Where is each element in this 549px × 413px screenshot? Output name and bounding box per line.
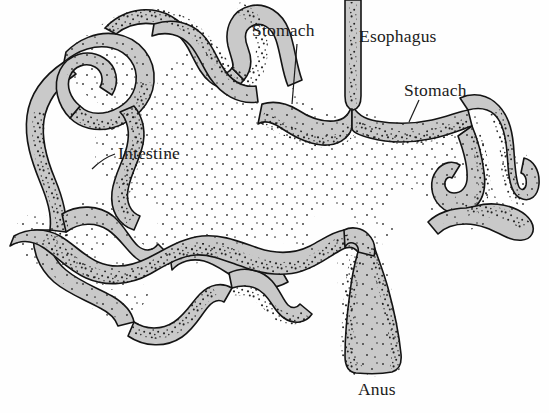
label-stomach-right: Stomach [404, 82, 467, 100]
label-stomach-upper: Stomach [252, 22, 315, 40]
digestive-tract-illustration [0, 0, 549, 413]
label-esophagus: Esophagus [359, 28, 437, 46]
leader-line-stomach-right [409, 100, 419, 122]
label-anus: Anus [358, 381, 396, 399]
label-intestine: Intestine [118, 145, 180, 163]
digestive-tract-figure: Stomach Esophagus Stomach Intestine Anus [0, 0, 549, 413]
